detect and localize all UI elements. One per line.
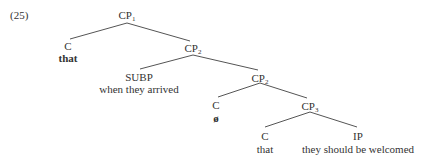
example-number: (25) bbox=[10, 9, 28, 21]
node-cp2-lower: CP2 bbox=[252, 72, 269, 84]
node-c-mid: C bbox=[212, 99, 219, 111]
node-cp1: CP1 bbox=[119, 9, 136, 21]
node-subscript: 2 bbox=[198, 48, 202, 56]
word-null: ø bbox=[213, 112, 219, 124]
branch-cp1-c bbox=[70, 23, 127, 39]
node-cp2-upper: CP2 bbox=[185, 42, 202, 54]
branch-cp2-subp bbox=[140, 55, 193, 69]
node-label: CP bbox=[119, 9, 132, 21]
node-c-low: C bbox=[261, 130, 268, 142]
branch-cp2-c bbox=[218, 83, 260, 97]
branch-cp3-c bbox=[265, 112, 310, 127]
branch-cp1-cp2 bbox=[127, 23, 190, 41]
branch-cp3-ip bbox=[310, 112, 357, 127]
node-label: CP bbox=[252, 72, 265, 84]
word-they-should-be-welcomed: they should be welcomed bbox=[302, 143, 414, 155]
word-that: that bbox=[257, 143, 274, 155]
node-subscript: 1 bbox=[132, 15, 136, 23]
node-ip: IP bbox=[353, 130, 363, 142]
word-when-they-arrived: when they arrived bbox=[99, 83, 178, 95]
node-label: CP bbox=[185, 42, 198, 54]
word-that-bold: that bbox=[59, 52, 78, 64]
node-subp: SUBP bbox=[125, 71, 153, 83]
node-subscript: 3 bbox=[315, 106, 319, 114]
node-cp3: CP3 bbox=[302, 100, 319, 112]
node-c-top: C bbox=[64, 40, 71, 52]
branch-cp2-cp2 bbox=[193, 55, 258, 70]
node-subscript: 2 bbox=[265, 78, 269, 86]
node-label: CP bbox=[302, 100, 315, 112]
